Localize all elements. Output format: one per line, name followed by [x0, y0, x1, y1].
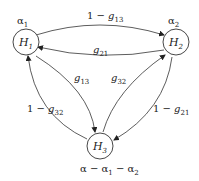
label-1-minus-g13: 1 − g13 — [87, 10, 123, 24]
node-h3: H3 — [87, 133, 113, 159]
edge-h3-h1 — [28, 56, 87, 139]
weight-h2: α2 — [168, 15, 179, 29]
node-h2: H2 — [163, 29, 189, 55]
edge-h3-h2 — [103, 55, 165, 132]
node-h1: H1 — [13, 29, 39, 55]
label-g21: g21 — [93, 44, 108, 58]
label-g13: g13 — [74, 72, 89, 86]
edge-h2-h3 — [114, 57, 172, 140]
weight-h1: α1 — [17, 15, 28, 29]
weight-h3: α − α1 − α2 — [80, 163, 139, 177]
markov-diagram: H1 H2 H3 α1 α2 α − α1 − α2 1 − g13 g21 g… — [0, 0, 199, 181]
label-1-minus-g32: 1 − g32 — [27, 103, 63, 117]
edge-h1-h2 — [36, 25, 164, 35]
label-g32: g32 — [111, 72, 126, 86]
label-1-minus-g21: 1 − g21 — [153, 103, 189, 117]
edge-h1-h3 — [36, 56, 95, 132]
